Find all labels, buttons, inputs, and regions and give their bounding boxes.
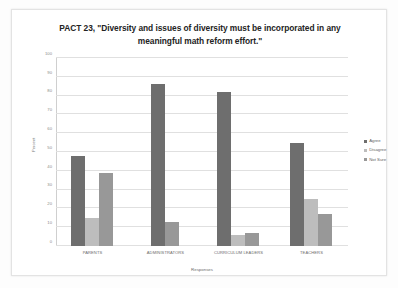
x-category-label: PARENTS [83, 251, 103, 255]
bar-not-sure [165, 222, 179, 246]
bar-not-sure [99, 173, 113, 246]
bar-not-sure [318, 214, 332, 246]
bar-agree [71, 156, 85, 246]
legend-swatch-icon [364, 149, 367, 152]
bar-group: ADMINISTRATORS [136, 58, 194, 246]
scanned-page-frame: PACT 23, "Diversity and issues of divers… [11, 9, 387, 276]
chart-legend: AgreeDisagreeNot Sure [364, 139, 386, 162]
bar-disagree [304, 199, 318, 246]
x-axis-title: Responses [56, 268, 348, 272]
legend-label: Agree [369, 139, 380, 143]
chart-title: PACT 23, "Diversity and issues of divers… [50, 22, 350, 47]
y-tick-label: 10 [47, 221, 52, 225]
plot-area: 0102030405060708090100 PARENTSADMINISTRA… [56, 58, 348, 246]
bar-group: TEACHERS [282, 58, 340, 246]
legend-item[interactable]: Not Sure [364, 158, 386, 162]
legend-label: Disagree [369, 148, 386, 152]
y-tick-label: 50 [47, 146, 52, 150]
bar-agree [151, 84, 165, 246]
legend-label: Not Sure [369, 158, 386, 162]
y-tick-label: 20 [47, 202, 52, 206]
y-tick-label: 80 [47, 89, 52, 93]
legend-item[interactable]: Agree [364, 139, 386, 143]
y-tick-label: 100 [45, 52, 52, 56]
legend-swatch-icon [364, 140, 367, 143]
legend-item[interactable]: Disagree [364, 148, 386, 152]
bar-group: CURRICULUM LEADERS [209, 58, 267, 246]
bar-agree [290, 143, 304, 246]
y-axis-title: Percent [32, 138, 36, 152]
x-category-label: ADMINISTRATORS [147, 251, 184, 255]
bar-not-sure [245, 233, 259, 246]
bar-agree [217, 92, 231, 246]
bar-group: PARENTS [63, 58, 121, 246]
x-category-label: TEACHERS [300, 251, 323, 255]
y-tick-label: 30 [47, 183, 52, 187]
bar-disagree [231, 235, 245, 246]
y-tick-label: 90 [47, 71, 52, 75]
y-tick-label: 0 [50, 240, 52, 244]
legend-swatch-icon [364, 158, 367, 161]
y-tick-label: 40 [47, 165, 52, 169]
screenshot-root: PACT 23, "Diversity and issues of divers… [0, 0, 398, 288]
y-tick-label: 60 [47, 127, 52, 131]
y-tick-label: 70 [47, 108, 52, 112]
bar-disagree [85, 218, 99, 246]
x-category-label: CURRICULUM LEADERS [214, 251, 263, 255]
